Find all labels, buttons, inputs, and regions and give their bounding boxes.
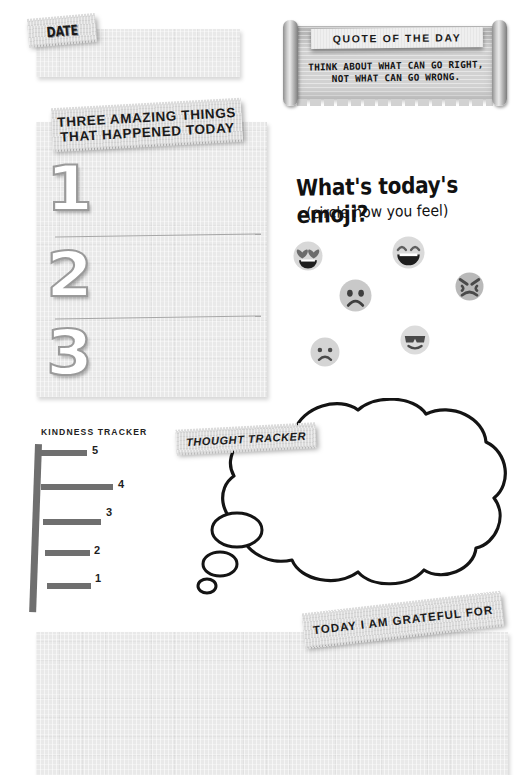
emoji-question-subtitle: (circle how you feel) (306, 201, 448, 221)
ladder-rung-5[interactable] (39, 450, 87, 456)
grateful-input-field[interactable] (36, 632, 508, 775)
list-number-2: 2 (46, 244, 93, 306)
thought-tracker-label: THOUGHT TRACKER (176, 424, 317, 453)
quote-of-the-day-scroll: QUOTE OF THE DAY THINK ABOUT WHAT CAN GO… (283, 20, 507, 108)
quote-title: QUOTE OF THE DAY (311, 27, 483, 49)
journal-page: DATE THREE AMAZING THINGS THAT HAPPENED … (0, 0, 515, 775)
list-number-1: 1 (46, 158, 93, 220)
ladder-level-label-3: 3 (106, 506, 112, 518)
kindness-tracker-ladder[interactable]: 54321 (28, 440, 148, 615)
laughing-emoji[interactable] (392, 236, 425, 269)
ladder-level-label-5: 5 (92, 444, 98, 456)
angry-emoji[interactable] (455, 272, 484, 301)
heart-eyes-emoji[interactable] (293, 241, 323, 271)
sad-emoji[interactable] (339, 279, 372, 312)
scroll-roll-right-icon (492, 20, 507, 106)
ladder-rung-2[interactable] (45, 550, 90, 556)
quote-text: THINK ABOUT WHAT CAN GO RIGHT, NOT WHAT … (301, 58, 491, 85)
scroll-roll-left-icon (283, 20, 298, 106)
date-label-text: DATE (46, 21, 79, 40)
ladder-rung-3[interactable] (43, 519, 101, 525)
frowning-emoji[interactable] (310, 337, 340, 367)
ladder-rung-4[interactable] (41, 484, 113, 490)
ladder-rail (29, 444, 42, 612)
list-number-3: 3 (46, 322, 93, 384)
ladder-level-label-1: 1 (95, 572, 101, 584)
ladder-rung-1[interactable] (47, 583, 91, 589)
date-label: DATE (27, 15, 97, 46)
sunglasses-emoji[interactable] (400, 325, 430, 355)
ladder-level-label-2: 2 (94, 544, 100, 556)
ladder-level-label-4: 4 (118, 478, 124, 490)
three-amazing-things-label: THREE AMAZING THINGS THAT HAPPENED TODAY (51, 100, 243, 151)
kindness-tracker-title: KINDNESS TRACKER (41, 427, 147, 437)
